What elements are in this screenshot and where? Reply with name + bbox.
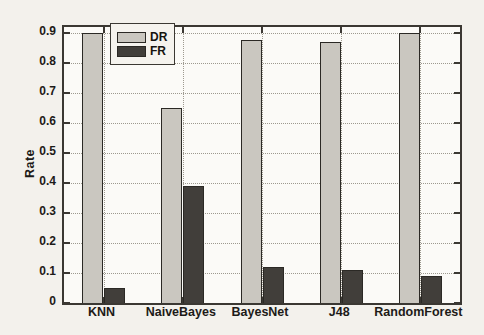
y-tick-mark-left-0.1 (64, 272, 70, 274)
y-tick-mark-left-0.5 (64, 152, 70, 154)
x-tick-mark-top-BayesNet (261, 27, 263, 33)
gridline-v-J48 (341, 27, 342, 303)
bar-FR-NaiveBayes (183, 186, 204, 303)
bar-DR-BayesNet (241, 40, 262, 303)
y-tick-mark-right-0.6 (454, 122, 460, 124)
bar-FR-RandomForest (421, 276, 442, 303)
bar-DR-NaiveBayes (161, 108, 182, 303)
y-tick-mark-left-0.9 (64, 32, 70, 34)
y-tick-mark-right-0.1 (454, 272, 460, 274)
y-tick-mark-right-0.4 (454, 182, 460, 184)
bar-FR-J48 (342, 270, 363, 303)
legend-label-FR: FR (150, 45, 166, 57)
y-tick-mark-right-0.5 (454, 152, 460, 154)
y-tick-label-0.8: 0.8 (18, 54, 56, 68)
y-tick-label-0.1: 0.1 (18, 264, 56, 278)
legend-swatch-FR (117, 46, 146, 57)
legend-entry-DR: DR (117, 31, 169, 43)
x-tick-mark-top-NaiveBayes (182, 27, 184, 33)
legend-swatch-DR (117, 32, 146, 43)
legend: DRFR (110, 23, 175, 65)
bar-FR-BayesNet (263, 267, 284, 303)
y-tick-label-0.9: 0.9 (18, 24, 56, 38)
y-tick-label-0.3: 0.3 (18, 204, 56, 218)
y-tick-label-0.4: 0.4 (18, 174, 56, 188)
y-tick-mark-left-0.3 (64, 212, 70, 214)
y-tick-mark-left-0.4 (64, 182, 70, 184)
y-tick-mark-right-0.9 (454, 32, 460, 34)
y-tick-mark-left-0.7 (64, 92, 70, 94)
y-tick-mark-right-0.7 (454, 92, 460, 94)
y-tick-mark-right-0.8 (454, 62, 460, 64)
y-tick-label-0.7: 0.7 (18, 84, 56, 98)
y-tick-label-0.6: 0.6 (18, 114, 56, 128)
gridline-v-RandomForest (420, 27, 421, 303)
bar-DR-RandomForest (399, 33, 420, 303)
y-tick-mark-left-0 (64, 302, 70, 304)
y-tick-mark-right-0.3 (454, 212, 460, 214)
y-tick-mark-left-0.2 (64, 242, 70, 244)
y-tick-mark-left-0.8 (64, 62, 70, 64)
y-tick-mark-right-0.2 (454, 242, 460, 244)
y-tick-label-0.2: 0.2 (18, 234, 56, 248)
y-tick-mark-left-0.6 (64, 122, 70, 124)
bar-chart-figure: Rate DRFR 00.10.20.30.40.50.60.70.80.9KN… (0, 0, 484, 335)
y-tick-mark-right-0 (454, 302, 460, 304)
bar-FR-KNN (104, 288, 125, 303)
legend-entry-FR: FR (117, 45, 169, 57)
bar-DR-J48 (320, 42, 341, 303)
legend-label-DR: DR (150, 31, 167, 43)
y-tick-label-0.5: 0.5 (18, 144, 56, 158)
gridline-v-BayesNet (262, 27, 263, 303)
x-tick-label-RandomForest: RandomForest (363, 305, 473, 319)
plot-area: DRFR (62, 25, 462, 305)
x-tick-mark-top-J48 (340, 27, 342, 33)
gridline-v-KNN (104, 27, 105, 303)
bar-DR-KNN (82, 33, 103, 303)
